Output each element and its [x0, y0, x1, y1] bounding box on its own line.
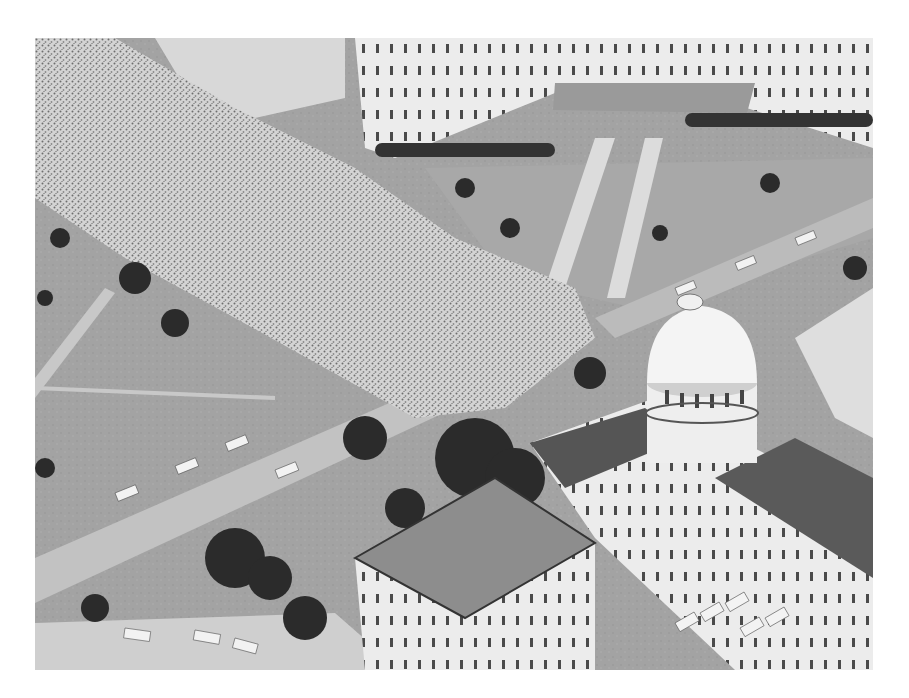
aerial-photograph	[35, 38, 873, 670]
courtyard-roof	[553, 83, 755, 113]
